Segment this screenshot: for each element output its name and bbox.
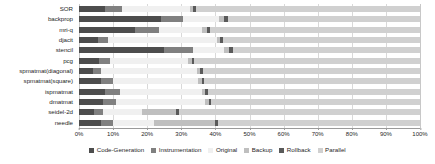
bar-segment[interactable] xyxy=(105,89,120,95)
bar-segment[interactable] xyxy=(101,68,196,74)
bar-segment[interactable] xyxy=(142,109,176,115)
x-axis-tick: 60% xyxy=(278,129,290,137)
x-axis-tick-label: 40% xyxy=(209,129,221,137)
bar-segment[interactable] xyxy=(101,120,113,126)
bar-segment[interactable] xyxy=(120,89,202,95)
stacked-bar[interactable] xyxy=(79,78,420,84)
bar-segment[interactable] xyxy=(108,37,217,43)
bar-segment[interactable] xyxy=(196,6,420,12)
x-axis-tick: 80% xyxy=(346,129,358,137)
bar-segment[interactable] xyxy=(203,68,420,74)
bar-segment[interactable] xyxy=(79,120,101,126)
x-axis-tick: 100% xyxy=(412,129,427,137)
bar-segment[interactable] xyxy=(183,16,219,22)
bar-segment[interactable] xyxy=(103,99,117,105)
bar-segment[interactable] xyxy=(79,58,99,64)
bar-segment[interactable] xyxy=(79,89,105,95)
table-row xyxy=(79,87,420,97)
legend-label: Backup xyxy=(252,147,273,153)
bar-segment[interactable] xyxy=(79,68,93,74)
bar-segment[interactable] xyxy=(79,27,135,33)
x-axis-tick: 0% xyxy=(75,129,84,137)
bar-segment[interactable] xyxy=(194,58,420,64)
bar-segment[interactable] xyxy=(218,120,420,126)
y-axis-label: spmatmat(diagonal) xyxy=(0,66,76,76)
bar-segment[interactable] xyxy=(228,16,420,22)
bar-segment[interactable] xyxy=(113,78,198,84)
y-axis-label: stencil xyxy=(0,45,76,55)
bar-rows xyxy=(79,4,420,128)
stacked-bar[interactable] xyxy=(79,58,420,64)
stacked-bar[interactable] xyxy=(79,6,420,12)
bar-segment[interactable] xyxy=(179,109,420,115)
stacked-bar[interactable] xyxy=(79,120,420,126)
bar-segment[interactable] xyxy=(122,6,190,12)
legend-label: Parallel xyxy=(325,147,346,153)
x-axis-tick-label: 50% xyxy=(243,129,255,137)
bar-segment[interactable] xyxy=(193,47,224,53)
table-row xyxy=(79,66,420,76)
x-axis-tick-label: 60% xyxy=(278,129,290,137)
x-axis-tick-label: 30% xyxy=(175,129,187,137)
tick-mark xyxy=(215,128,216,130)
bar-segment[interactable] xyxy=(94,109,103,115)
legend-item[interactable]: Backup xyxy=(244,147,272,153)
stacked-bar[interactable] xyxy=(79,89,420,95)
bar-segment[interactable] xyxy=(210,27,420,33)
bar-segment[interactable] xyxy=(79,99,103,105)
bar-segment[interactable] xyxy=(161,16,183,22)
y-axis-label: backprop xyxy=(0,14,76,24)
y-axis-label: pcg xyxy=(0,56,76,66)
bar-segment[interactable] xyxy=(135,27,159,33)
bar-segment[interactable] xyxy=(154,120,215,126)
stacked-bar[interactable] xyxy=(79,37,420,43)
legend-label: Original xyxy=(216,147,237,153)
bar-segment[interactable] xyxy=(113,120,154,126)
x-axis-tick-label: 10% xyxy=(107,129,119,137)
stacked-bar[interactable] xyxy=(79,68,420,74)
bar-segment[interactable] xyxy=(79,16,161,22)
bar-segment[interactable] xyxy=(79,78,101,84)
bar-segment[interactable] xyxy=(79,109,94,115)
stacked-bar[interactable] xyxy=(79,47,420,53)
bar-segment[interactable] xyxy=(99,58,109,64)
bar-segment[interactable] xyxy=(110,58,188,64)
bar-segment[interactable] xyxy=(79,37,98,43)
x-axis-tick-label: 100% xyxy=(412,129,427,137)
bar-segment[interactable] xyxy=(79,6,105,12)
legend-item[interactable]: Parallel xyxy=(318,147,346,153)
bar-segment[interactable] xyxy=(164,47,193,53)
stacked-bar[interactable] xyxy=(79,109,420,115)
bar-segment[interactable] xyxy=(105,6,122,12)
tick-mark xyxy=(147,128,148,130)
bar-segment[interactable] xyxy=(208,89,420,95)
x-axis-tick: 70% xyxy=(312,129,324,137)
legend-item[interactable]: Instrumentation xyxy=(151,147,201,153)
bar-segment[interactable] xyxy=(204,78,420,84)
x-axis-tick-label: 90% xyxy=(380,129,392,137)
legend-item[interactable]: Original xyxy=(208,147,237,153)
table-row xyxy=(79,25,420,35)
legend-item[interactable]: Rollback xyxy=(279,147,310,153)
table-row xyxy=(79,97,420,107)
bar-segment[interactable] xyxy=(116,99,205,105)
stacked-bar[interactable] xyxy=(79,27,420,33)
bar-segment[interactable] xyxy=(103,109,142,115)
bar-segment[interactable] xyxy=(93,68,102,74)
table-row xyxy=(79,76,420,86)
bar-segment[interactable] xyxy=(101,78,113,84)
legend-item[interactable]: Code-Generation xyxy=(89,147,144,153)
y-axis-label: djacit xyxy=(0,35,76,45)
table-row xyxy=(79,118,420,128)
y-axis-label: dmatmat xyxy=(0,97,76,107)
bar-segment[interactable] xyxy=(98,37,108,43)
stacked-bar[interactable] xyxy=(79,99,420,105)
bar-segment[interactable] xyxy=(159,27,202,33)
y-axis-labels: SORbackpropmri-qdjacitstencilpcgspmatmat… xyxy=(0,4,76,128)
bar-segment[interactable] xyxy=(233,47,420,53)
bar-segment[interactable] xyxy=(223,37,420,43)
stacked-bar[interactable] xyxy=(79,16,420,22)
bar-segment[interactable] xyxy=(211,99,420,105)
bar-segment[interactable] xyxy=(79,47,164,53)
tick-mark xyxy=(113,128,114,130)
